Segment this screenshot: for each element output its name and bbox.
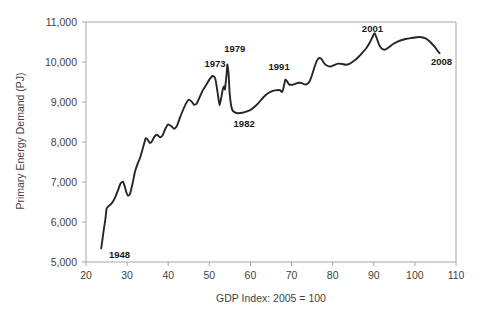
x-tick-label: 20 xyxy=(80,269,92,281)
x-tick-label: 60 xyxy=(245,269,257,281)
y-tick-label: 5,000 xyxy=(51,256,77,268)
y-tick-label: 6,000 xyxy=(51,216,77,228)
y-axis-title: Primary Energy Demand (PJ) xyxy=(14,72,26,209)
annotation-label-1991: 1991 xyxy=(269,61,291,72)
annotation-label-2001: 2001 xyxy=(362,23,384,34)
annotation-label-2008: 2008 xyxy=(431,56,452,67)
x-tick-label: 80 xyxy=(327,269,339,281)
energy-gdp-line-chart: 5,0006,0007,0008,0009,00010,00011,000 20… xyxy=(0,0,493,314)
x-axis-title: GDP Index: 2005 = 100 xyxy=(216,292,326,304)
y-tick-label: 7,000 xyxy=(51,176,77,188)
x-tick-label: 30 xyxy=(121,269,133,281)
y-tick-label: 8,000 xyxy=(51,136,77,148)
chart-container: 5,0006,0007,0008,0009,00010,00011,000 20… xyxy=(0,0,493,314)
x-tick-label: 100 xyxy=(406,269,424,281)
x-tick-label: 50 xyxy=(203,269,215,281)
y-tick-label: 10,000 xyxy=(45,56,77,68)
annotation-label-1979: 1979 xyxy=(224,43,245,54)
y-tick-label: 11,000 xyxy=(46,16,77,28)
x-tick-label: 90 xyxy=(368,269,380,281)
annotation-label-1973: 1973 xyxy=(204,58,225,69)
x-tick-label: 110 xyxy=(448,269,465,281)
y-tick-label: 9,000 xyxy=(51,96,77,108)
annotation-label-1948: 1948 xyxy=(109,249,130,260)
x-tick-label: 40 xyxy=(162,269,174,281)
x-tick-label: 70 xyxy=(286,269,298,281)
annotation-label-1982: 1982 xyxy=(234,118,255,129)
